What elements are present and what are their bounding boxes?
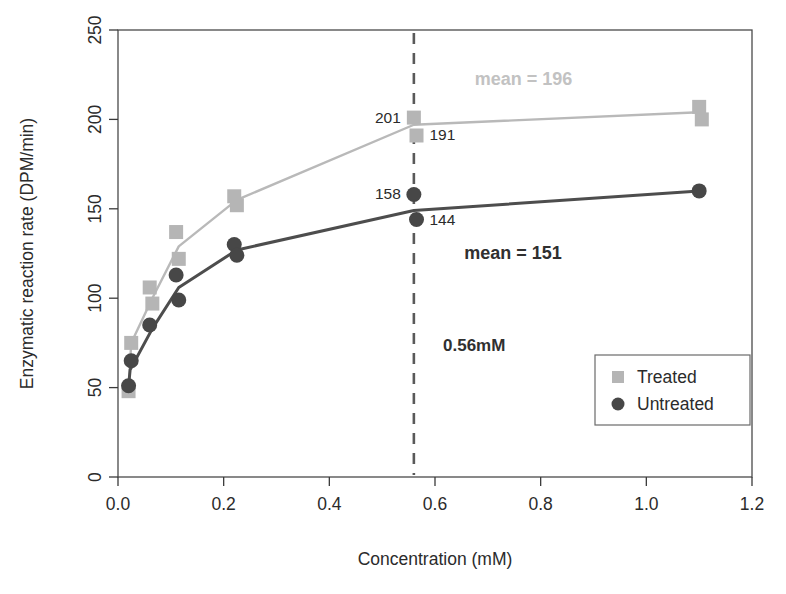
marker-treated-10 [692, 100, 706, 114]
marker-untreated-4 [171, 292, 186, 307]
x-tick-label-1.2: 1.2 [740, 494, 764, 514]
legend-marker-treated [612, 371, 624, 383]
y-tick-label-200: 200 [85, 105, 105, 134]
marker-untreated-7 [406, 187, 421, 202]
chart-page: 0.00.20.40.60.81.01.2050100150200250Conc… [0, 0, 786, 594]
y-tick-label-0: 0 [85, 472, 105, 482]
mean-treated-label: mean = 196 [475, 69, 573, 89]
x-tick-label-0.0: 0.0 [106, 494, 131, 514]
point-label-201: 201 [375, 109, 401, 126]
y-axis-title: Enzymatic reaction rate (DPM/min) [17, 118, 37, 389]
y-tick-label-50: 50 [85, 378, 105, 398]
point-label-144: 144 [430, 211, 456, 228]
point-label-191: 191 [430, 126, 456, 143]
enzyme-kinetics-chart: 0.00.20.40.60.81.01.2050100150200250Conc… [0, 0, 786, 594]
marker-untreated-6 [229, 248, 244, 263]
marker-untreated-9 [692, 183, 707, 198]
marker-treated-7 [230, 198, 244, 212]
marker-treated-4 [169, 225, 183, 239]
marker-treated-5 [172, 252, 186, 266]
mean-untreated-label: mean = 151 [464, 243, 562, 263]
legend-label-treated: Treated [637, 367, 697, 387]
legend-box [595, 355, 750, 425]
marker-treated-3 [145, 297, 159, 311]
marker-untreated-0 [121, 378, 136, 393]
y-tick-label-250: 250 [85, 15, 105, 44]
marker-treated-1 [124, 336, 138, 350]
x-tick-label-0.6: 0.6 [423, 494, 447, 514]
y-tick-label-100: 100 [85, 283, 105, 312]
x-tick-label-0.4: 0.4 [317, 494, 342, 514]
x-tick-label-0.2: 0.2 [212, 494, 236, 514]
marker-treated-11 [695, 112, 709, 126]
marker-untreated-2 [142, 318, 157, 333]
marker-treated-2 [143, 280, 157, 294]
vline-concentration-label: 0.56mM [443, 336, 505, 355]
marker-untreated-3 [169, 267, 184, 282]
point-label-158: 158 [375, 185, 401, 202]
x-axis-title: Concentration (mM) [358, 549, 513, 569]
marker-treated-9 [410, 128, 424, 142]
y-tick-label-150: 150 [85, 194, 105, 223]
legend-label-untreated: Untreated [637, 394, 714, 414]
marker-untreated-8 [409, 212, 424, 227]
marker-treated-8 [407, 111, 421, 125]
x-tick-label-1.0: 1.0 [634, 494, 659, 514]
legend-marker-untreated [612, 398, 625, 411]
x-tick-label-0.8: 0.8 [529, 494, 553, 514]
marker-untreated-1 [124, 353, 139, 368]
